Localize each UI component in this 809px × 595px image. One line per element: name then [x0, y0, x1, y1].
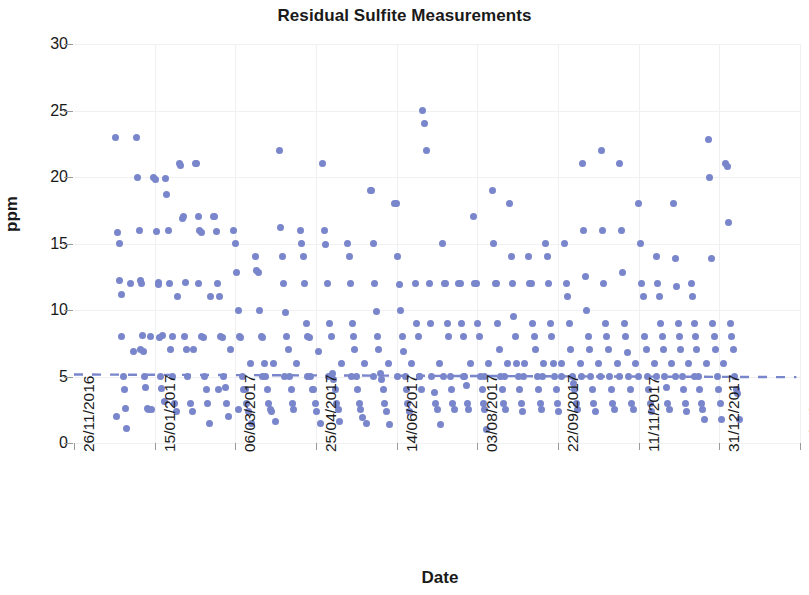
data-point [672, 373, 679, 380]
x-axis-tick [800, 443, 801, 450]
data-point [564, 293, 571, 300]
data-point [535, 386, 542, 393]
data-point [691, 320, 698, 327]
data-point [261, 360, 268, 367]
data-point [682, 400, 689, 407]
data-point [509, 280, 516, 287]
data-point [679, 373, 686, 380]
data-point [502, 406, 509, 413]
data-point [290, 406, 297, 413]
data-point [550, 360, 557, 367]
data-point [548, 333, 555, 340]
data-point [259, 373, 266, 380]
data-point [602, 320, 609, 327]
data-point [137, 346, 144, 353]
data-point [116, 240, 123, 247]
data-point [555, 408, 562, 415]
data-point [380, 386, 387, 393]
data-point [419, 107, 426, 114]
data-point [567, 346, 574, 353]
data-point [553, 386, 560, 393]
data-point [512, 333, 519, 340]
data-point [670, 200, 677, 207]
data-point [531, 333, 538, 340]
data-point [566, 320, 573, 327]
x-axis-title: Date [0, 568, 809, 588]
data-point [166, 280, 173, 287]
data-point [165, 227, 172, 234]
data-point [136, 227, 143, 234]
data-point [201, 373, 208, 380]
data-point [600, 280, 607, 287]
data-point [672, 255, 679, 262]
gridline-horizontal [74, 443, 800, 444]
data-point [141, 373, 148, 380]
data-point [370, 373, 377, 380]
data-point [709, 320, 716, 327]
data-point [195, 280, 202, 287]
data-point [715, 386, 722, 393]
data-point [122, 405, 129, 412]
data-point [725, 219, 732, 226]
data-point [712, 346, 719, 353]
data-point [193, 160, 200, 167]
data-point [415, 333, 422, 340]
data-point [396, 281, 403, 288]
data-point [458, 320, 465, 327]
data-point [182, 279, 189, 286]
data-point [371, 280, 378, 287]
data-point [370, 240, 377, 247]
data-point [542, 240, 549, 247]
data-point [118, 291, 125, 298]
data-point [692, 333, 699, 340]
data-point [676, 333, 683, 340]
x-axis-tick-label: 25/04/2017 [322, 434, 340, 452]
data-point [268, 408, 275, 415]
data-point [603, 333, 610, 340]
data-point [203, 386, 210, 393]
data-point [304, 373, 311, 380]
y-axis-tick [64, 111, 73, 112]
data-point [608, 386, 615, 393]
data-point [431, 389, 438, 396]
data-point [288, 386, 295, 393]
gridline-vertical [800, 44, 801, 443]
data-point [378, 376, 385, 383]
data-point [357, 406, 364, 413]
data-point [155, 281, 162, 288]
data-point [326, 320, 333, 327]
x-axis-tick [397, 443, 398, 450]
data-point [301, 280, 308, 287]
data-point [189, 408, 196, 415]
data-point [413, 320, 420, 327]
data-point [529, 320, 536, 327]
data-point [427, 320, 434, 327]
data-point [508, 253, 515, 260]
data-point [590, 400, 597, 407]
data-point [699, 406, 706, 413]
data-point [705, 136, 712, 143]
data-point [463, 382, 470, 389]
data-point [220, 373, 227, 380]
data-point [680, 386, 687, 393]
data-point [213, 228, 220, 235]
data-point [187, 400, 194, 407]
page-title: Residual Sulfite Measurements [0, 6, 809, 26]
data-point [255, 269, 262, 276]
data-point [142, 384, 149, 391]
data-point [611, 406, 618, 413]
data-point [374, 333, 381, 340]
data-point [169, 333, 176, 340]
data-point [118, 333, 125, 340]
data-point [421, 120, 428, 127]
data-point [252, 253, 259, 260]
data-point [720, 360, 727, 367]
data-point [428, 373, 435, 380]
data-point [235, 307, 242, 314]
data-point [319, 160, 326, 167]
data-point [426, 280, 433, 287]
data-point [703, 360, 710, 367]
data-point [519, 408, 526, 415]
data-point [554, 400, 561, 407]
data-point [630, 406, 637, 413]
